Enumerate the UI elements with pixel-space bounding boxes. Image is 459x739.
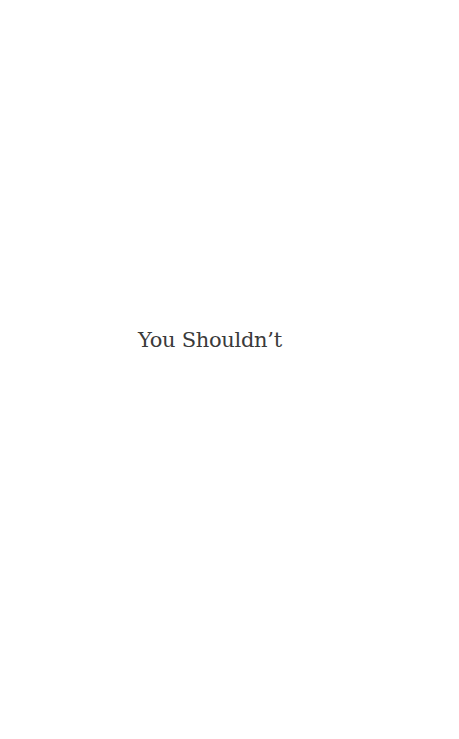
page: You Shouldn’t [0,0,459,739]
page-title: You Shouldn’t [138,326,300,354]
